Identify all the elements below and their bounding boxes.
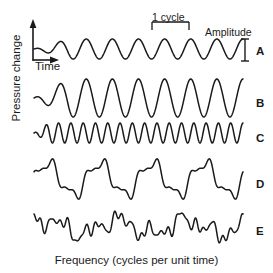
amplitude-indicator-icon	[241, 39, 249, 61]
trace-group	[34, 39, 243, 243]
cycle-bracket-icon	[152, 22, 189, 30]
axis-group	[30, 19, 59, 63]
waveform-plot	[0, 0, 273, 273]
y-axis-label: Pressure change	[10, 18, 22, 138]
waveform-figure: Pressure change Time 1 cycle Amplitude A…	[0, 0, 273, 273]
trace-d-waveform	[34, 159, 243, 199]
x-axis-caption: Frequency (cycles per unit time)	[0, 254, 273, 266]
y-axis-arrowhead-icon	[30, 19, 37, 28]
trace-label-d: D	[256, 178, 264, 190]
trace-c-waveform	[34, 123, 243, 143]
trace-e-waveform	[34, 211, 243, 243]
one-cycle-annotation: 1 cycle	[152, 11, 185, 23]
trace-label-c: C	[256, 132, 264, 144]
trace-b-waveform	[34, 79, 243, 117]
trace-a-waveform	[34, 39, 243, 59]
time-axis-label: Time	[35, 60, 60, 72]
trace-label-b: B	[256, 97, 264, 109]
trace-label-e: E	[256, 225, 264, 237]
trace-label-a: A	[256, 45, 264, 57]
amplitude-annotation: Amplitude	[205, 26, 252, 38]
